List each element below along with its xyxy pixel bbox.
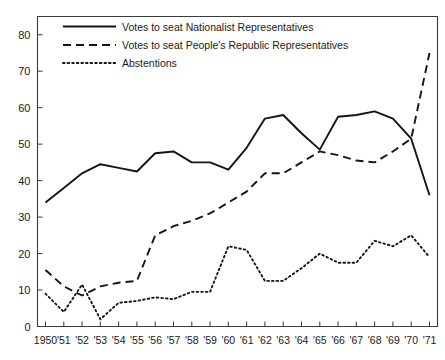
legend-label-2: Votes to seat People's Republic Represen… bbox=[122, 39, 348, 51]
x-tick-label: '61 bbox=[240, 334, 254, 346]
y-tick-label: 60 bbox=[18, 102, 30, 114]
x-tick-label: '53 bbox=[94, 334, 108, 346]
y-axis-tick-marks bbox=[38, 35, 43, 327]
line-chart: 01020304050607080 1950'51'52'53'54'55'56… bbox=[0, 0, 445, 360]
y-tick-label: 40 bbox=[18, 175, 30, 187]
chart-legend: Votes to seat Nationalist Representative… bbox=[63, 21, 348, 70]
series-line-3 bbox=[46, 235, 430, 319]
x-tick-label: '57 bbox=[167, 334, 181, 346]
y-tick-label: 80 bbox=[18, 29, 30, 41]
x-axis-tick-labels: 1950'51'52'53'54'55'56'57'58'59'60'61'62… bbox=[34, 334, 437, 346]
x-tick-label: '63 bbox=[276, 334, 290, 346]
x-tick-label: '59 bbox=[203, 334, 217, 346]
x-tick-label: '60 bbox=[222, 334, 236, 346]
y-tick-label: 20 bbox=[18, 248, 30, 260]
x-tick-label: '66 bbox=[331, 334, 345, 346]
series-line-2 bbox=[46, 53, 430, 296]
x-tick-label: '54 bbox=[112, 334, 126, 346]
y-tick-label: 10 bbox=[18, 284, 30, 296]
x-tick-label: '55 bbox=[130, 334, 144, 346]
y-tick-label: 0 bbox=[24, 321, 30, 333]
y-tick-label: 50 bbox=[18, 138, 30, 150]
y-axis-tick-labels: 01020304050607080 bbox=[18, 29, 30, 333]
x-tick-label: 1950 bbox=[34, 334, 58, 346]
series-line-1 bbox=[46, 111, 430, 202]
x-tick-label: '68 bbox=[368, 334, 382, 346]
x-tick-label: '52 bbox=[75, 334, 89, 346]
x-axis-tick-marks bbox=[46, 322, 430, 327]
legend-label-1: Votes to seat Nationalist Representative… bbox=[122, 21, 313, 33]
x-tick-label: '56 bbox=[148, 334, 162, 346]
x-tick-label: '64 bbox=[295, 334, 309, 346]
x-tick-label: '51 bbox=[57, 334, 71, 346]
x-tick-label: '65 bbox=[313, 334, 327, 346]
x-tick-label: '69 bbox=[386, 334, 400, 346]
chart-container: 01020304050607080 1950'51'52'53'54'55'56… bbox=[0, 0, 445, 360]
x-tick-label: '71 bbox=[423, 334, 437, 346]
x-tick-label: '70 bbox=[404, 334, 418, 346]
x-tick-label: '62 bbox=[258, 334, 272, 346]
legend-label-3: Abstentions bbox=[122, 57, 177, 69]
y-tick-label: 70 bbox=[18, 65, 30, 77]
x-tick-label: '67 bbox=[350, 334, 364, 346]
y-tick-label: 30 bbox=[18, 211, 30, 223]
data-series-layer bbox=[46, 53, 430, 319]
x-tick-label: '58 bbox=[185, 334, 199, 346]
